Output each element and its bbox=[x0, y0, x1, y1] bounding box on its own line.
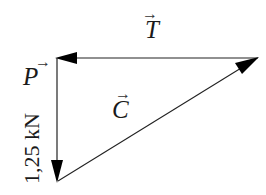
vector-c-arrowhead-icon bbox=[235, 57, 259, 74]
vector-c-line bbox=[58, 65, 246, 181]
vector-p-label: P bbox=[23, 64, 38, 89]
vector-p-magnitude: 1,25 kN bbox=[21, 113, 43, 184]
vector-t-arrowhead-icon bbox=[55, 52, 77, 64]
vector-t-label: T bbox=[145, 17, 159, 42]
vector-c-label: C bbox=[112, 97, 129, 122]
